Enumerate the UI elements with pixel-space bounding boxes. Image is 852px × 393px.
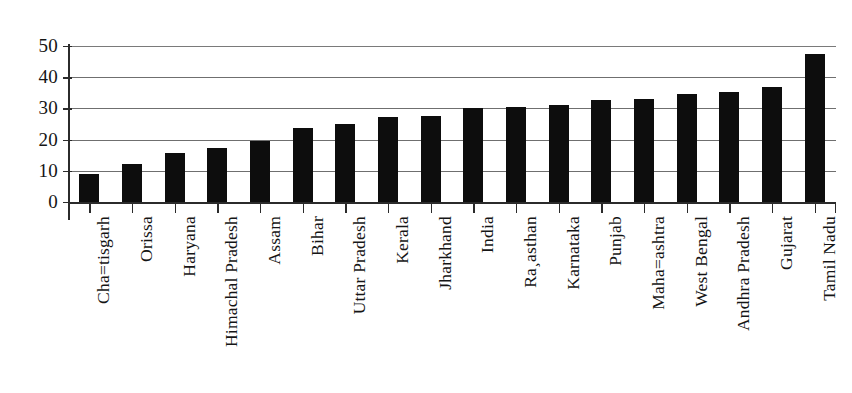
x-tick-mark [687, 202, 688, 213]
plot-area [68, 46, 836, 202]
bar-slot [281, 46, 324, 202]
x-axis-label: Maha=ashtra [650, 216, 668, 310]
x-axis-label-text: Haryana [181, 216, 199, 277]
bar-slot [793, 46, 836, 202]
bar[interactable] [719, 92, 739, 202]
bar[interactable] [634, 99, 654, 202]
bar-slot [623, 46, 666, 202]
bar-slot [665, 46, 708, 202]
y-tick-mark-0 [63, 202, 72, 203]
x-tick-mark [260, 202, 261, 213]
x-axis-label-text: Maha=ashtra [650, 216, 668, 310]
x-tick-mark [644, 202, 645, 213]
x-axis-label: Tamil Nadu [821, 216, 839, 301]
x-axis-label-text: Orissa [138, 216, 156, 262]
bar[interactable] [805, 54, 825, 202]
x-axis-label-text: Kerala [394, 216, 412, 264]
bar-slot [367, 46, 410, 202]
x-tick-mark [217, 202, 218, 213]
bar[interactable] [165, 153, 185, 202]
x-tick-mark-end [835, 202, 836, 213]
bar[interactable] [122, 164, 142, 202]
bar[interactable] [207, 148, 227, 202]
x-tick-mark [729, 202, 730, 213]
x-tick-mark [388, 202, 389, 213]
bar-slot [580, 46, 623, 202]
x-axis-label: Andhra Pradesh [735, 216, 753, 331]
bar-slot [196, 46, 239, 202]
x-tick-mark [132, 202, 133, 213]
x-tick-mark [175, 202, 176, 213]
x-axis-label-text: Himachal Pradesh [223, 216, 241, 347]
bar-slot [324, 46, 367, 202]
x-tick-mark [303, 202, 304, 213]
bar[interactable] [421, 116, 441, 202]
bar-slot [239, 46, 282, 202]
bar-chart-figure: 01020304050 Cha=tisgarhOrissaHaryanaHima… [0, 0, 852, 393]
x-axis-label-text: Gujarat [778, 216, 796, 270]
x-axis-label-text: Tamil Nadu [821, 216, 839, 301]
x-tick-mark [516, 202, 517, 213]
bar-slot [111, 46, 154, 202]
x-axis-label-text: India [479, 216, 497, 253]
y-tick-mark-20 [63, 140, 72, 141]
y-tick-label-40: 40 [38, 67, 58, 86]
x-tick-mark [89, 202, 90, 213]
y-axis-tick-labels: 01020304050 [0, 0, 58, 393]
x-axis-label-text: Ra¸asthan [522, 216, 540, 288]
x-axis-label: Haryana [181, 216, 199, 277]
bar[interactable] [762, 87, 782, 202]
y-tick-mark-50 [63, 46, 72, 47]
x-tick-mark [815, 202, 816, 213]
bar-slot [153, 46, 196, 202]
x-axis-label: India [479, 216, 497, 253]
x-axis-label: Gujarat [778, 216, 796, 270]
x-axis-label: Assam [266, 216, 284, 265]
y-tick-label-20: 20 [38, 130, 58, 149]
x-axis-label-text: Punjab [607, 216, 625, 266]
y-tick-label-10: 10 [38, 161, 58, 180]
x-tick-mark [601, 202, 602, 213]
x-tick-mark [431, 202, 432, 213]
x-axis-label-text: Cha=tisgarh [95, 216, 113, 304]
bar-slot [409, 46, 452, 202]
bar-slot [452, 46, 495, 202]
x-axis-label: Uttar Pradesh [351, 216, 369, 314]
x-tick-mark [772, 202, 773, 213]
bar[interactable] [250, 141, 270, 202]
bar-slot [751, 46, 794, 202]
x-axis-label: Cha=tisgarh [95, 216, 113, 304]
x-axis-label: West Bengal [693, 216, 711, 307]
x-axis-label: Himachal Pradesh [223, 216, 241, 347]
x-axis-label-text: Jharkhand [437, 216, 455, 290]
x-axis-label: Punjab [607, 216, 625, 266]
bar[interactable] [549, 105, 569, 202]
x-axis-label: Bihar [309, 216, 327, 256]
bar-slot [495, 46, 538, 202]
x-tick-mark [473, 202, 474, 213]
bar-slot [537, 46, 580, 202]
y-tick-label-30: 30 [38, 98, 58, 117]
bar[interactable] [79, 174, 99, 202]
x-axis-label-text: Bihar [309, 216, 327, 256]
x-axis-label-text: Uttar Pradesh [351, 216, 369, 314]
x-axis-label: Jharkhand [437, 216, 455, 290]
x-axis-label: Orissa [138, 216, 156, 262]
x-axis-label: Kerala [394, 216, 412, 264]
bar[interactable] [677, 94, 697, 202]
x-axis-label-text: West Bengal [693, 216, 711, 307]
x-axis-tick-marks [68, 202, 836, 214]
x-axis-label-text: Assam [266, 216, 284, 265]
bar[interactable] [591, 100, 611, 202]
x-tick-mark [345, 202, 346, 213]
bar[interactable] [335, 124, 355, 202]
x-tick-mark [559, 202, 560, 213]
bar[interactable] [506, 107, 526, 202]
y-tick-label-0: 0 [48, 192, 58, 211]
bar[interactable] [293, 128, 313, 202]
y-tick-mark-30 [63, 108, 72, 109]
bar[interactable] [463, 108, 483, 202]
x-axis-label-text: Karnataka [565, 216, 583, 290]
bar[interactable] [378, 117, 398, 202]
x-axis-category-labels: Cha=tisgarhOrissaHaryanaHimachal Pradesh… [68, 216, 836, 391]
